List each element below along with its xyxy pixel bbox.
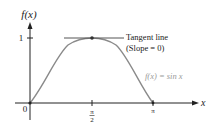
- curve-label: f(x) = sin x: [145, 71, 183, 81]
- tangent-label-line2: (Slope = 0): [126, 43, 164, 53]
- x-tick-label-half-pi-den: 2: [90, 116, 94, 124]
- sine-tangent-diagram: f(x) x 1 0 π 2 π Tangent line (Slope = 0…: [0, 0, 209, 128]
- x-tick-label-pi: π: [151, 107, 155, 115]
- x-axis-label: x: [200, 97, 206, 108]
- x-tick-label-half-pi-num: π: [90, 108, 94, 116]
- y-tick-label-1: 1: [19, 33, 24, 43]
- origin-point: [28, 101, 31, 104]
- x-axis-arrow-icon: [192, 101, 199, 106]
- y-axis-label: f(x): [21, 8, 37, 21]
- tangent-point: [90, 36, 94, 40]
- tangent-label-line1: Tangent line: [126, 32, 168, 42]
- origin-label: 0: [23, 104, 28, 114]
- y-axis-arrow-icon: [28, 22, 33, 29]
- pi-point: [152, 102, 155, 105]
